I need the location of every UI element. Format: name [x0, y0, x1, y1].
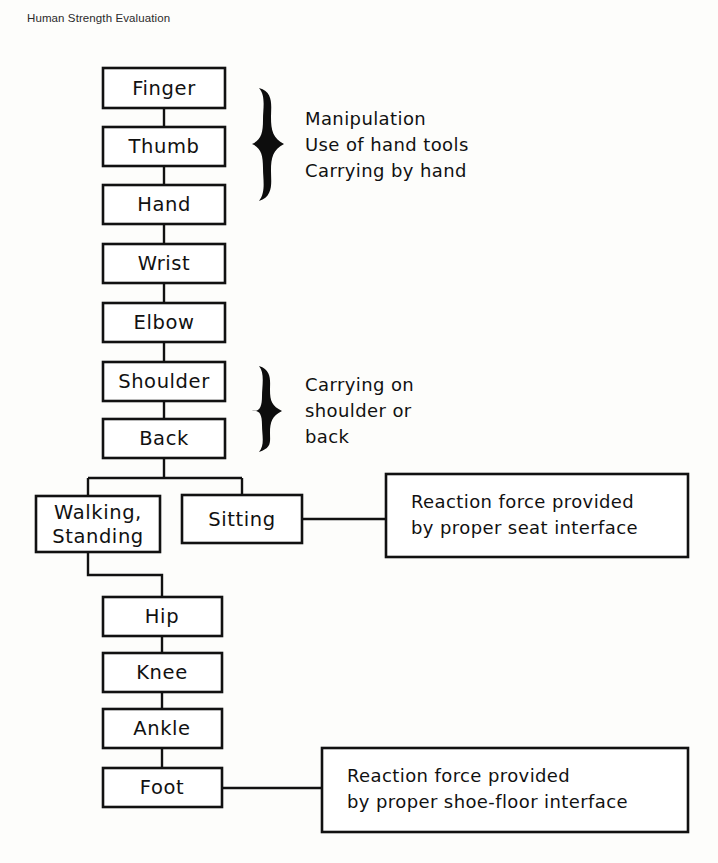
chain-node-elbow[interactable]: Elbow [103, 303, 225, 342]
node-label-wrist: Wrist [138, 252, 191, 275]
callout-box-seat [386, 474, 688, 557]
diagram-page: Human Strength Evaluation [0, 0, 718, 863]
chain-node-foot[interactable]: Foot [103, 768, 222, 807]
chain-node-knee[interactable]: Knee [103, 653, 222, 692]
curly-brace-icon-upper [252, 88, 284, 201]
node-label-standing: Standing [52, 525, 144, 548]
connector-group-split [88, 458, 242, 496]
node-label-walking: Walking, [54, 501, 142, 524]
callout-floor: Reaction force provided by proper shoe-f… [322, 748, 688, 832]
branch-node-walking-standing[interactable]: Walking, Standing [36, 496, 160, 552]
curly-brace-icon-lower [252, 366, 282, 452]
chain-node-thumb[interactable]: Thumb [103, 127, 225, 166]
node-label-sitting: Sitting [208, 508, 275, 531]
chain-node-ankle[interactable]: Ankle [103, 709, 222, 748]
callout-seat-line1: Reaction force provided [411, 491, 634, 512]
node-label-ankle: Ankle [133, 717, 190, 740]
flowchart-canvas: Finger Thumb Hand Wrist Elbow Shoulder B… [0, 0, 718, 863]
brace-upper-line1: Manipulation [305, 108, 426, 129]
chain-node-hand[interactable]: Hand [103, 185, 225, 224]
callout-floor-line2: by proper shoe-floor interface [347, 791, 628, 812]
connector-back-split [88, 458, 242, 496]
brace-upper-line2: Use of hand tools [305, 134, 469, 155]
node-label-knee: Knee [136, 661, 188, 684]
node-label-hip: Hip [145, 605, 179, 628]
callout-floor-line1: Reaction force provided [347, 765, 570, 786]
brace-lower-line3: back [305, 426, 350, 447]
callout-box-floor [322, 748, 688, 832]
chain-node-back[interactable]: Back [103, 419, 225, 458]
chain-node-shoulder[interactable]: Shoulder [103, 362, 225, 401]
brace-group-manipulation: Manipulation Use of hand tools Carrying … [252, 88, 469, 201]
brace-upper-line3: Carrying by hand [305, 160, 467, 181]
chain-node-hip[interactable]: Hip [103, 597, 222, 636]
brace-lower-line2: shoulder or [305, 400, 412, 421]
node-label-foot: Foot [140, 776, 184, 799]
node-label-elbow: Elbow [134, 311, 195, 334]
branch-node-sitting[interactable]: Sitting [182, 495, 302, 543]
node-label-hand: Hand [137, 193, 191, 216]
brace-group-carrying: Carrying on shoulder or back [252, 366, 414, 452]
chain-node-wrist[interactable]: Wrist [103, 244, 225, 283]
node-label-finger: Finger [132, 77, 196, 100]
chain-node-finger[interactable]: Finger [103, 68, 225, 108]
brace-lower-line1: Carrying on [305, 374, 414, 395]
node-label-back: Back [139, 427, 189, 450]
callout-seat: Reaction force provided by proper seat i… [386, 474, 688, 557]
callout-seat-line2: by proper seat interface [411, 517, 638, 538]
node-label-thumb: Thumb [127, 135, 199, 158]
connector-group-lower-link [88, 552, 162, 597]
node-label-shoulder: Shoulder [118, 370, 210, 393]
connector-walking-hip [88, 552, 162, 597]
